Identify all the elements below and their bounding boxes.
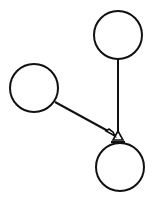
edge-left-to-bottom xyxy=(55,102,108,131)
node-left[interactable] xyxy=(10,64,58,112)
node-bottom[interactable] xyxy=(96,143,144,191)
diagram-canvas xyxy=(0,0,152,200)
node-top[interactable] xyxy=(94,11,142,59)
arrowhead-left-to-bottom-icon xyxy=(106,129,115,136)
